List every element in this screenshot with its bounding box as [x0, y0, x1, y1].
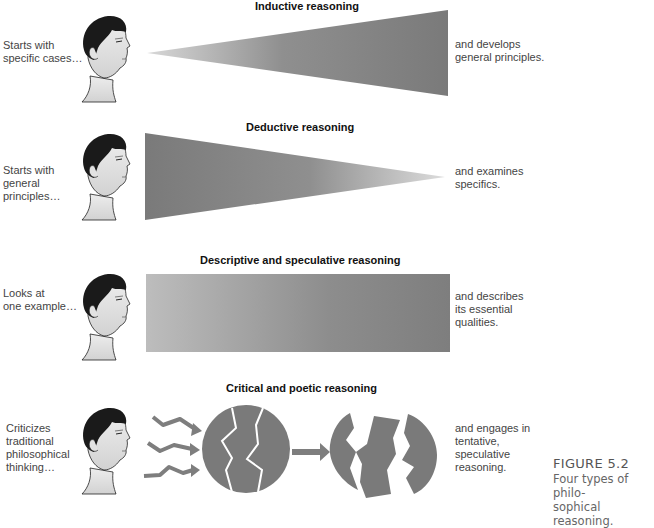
right-text-descriptive: and describes its essential qualities. — [455, 290, 524, 329]
left-text-deductive: Starts with general principles… — [3, 164, 60, 203]
head-illustration-2 — [82, 134, 130, 220]
left-text-inductive: Starts with specific cases… — [3, 39, 82, 65]
arrow-heads — [190, 423, 202, 477]
right-arrow — [292, 443, 330, 461]
right-text-deductive: and examines specifics. — [455, 165, 524, 191]
panel-title-inductive: Inductive reasoning — [255, 0, 359, 12]
figure-number: FIGURE 5.2 — [553, 456, 629, 471]
panel-title-descriptive: Descriptive and speculative reasoning — [200, 254, 401, 266]
expanding-triangle — [147, 10, 448, 96]
left-text-critical: Criticizes traditional philosophical thi… — [6, 422, 70, 474]
left-text-descriptive: Looks at one example… — [3, 287, 77, 313]
wavy-arrows — [144, 417, 195, 476]
right-text-critical: and engages in tentative, speculative re… — [455, 422, 530, 474]
narrowing-triangle — [145, 133, 445, 220]
cracked-circle — [202, 405, 290, 493]
gradient-rectangle — [146, 274, 450, 352]
head-illustration-4 — [82, 408, 130, 494]
right-text-inductive: and develops general principles. — [455, 38, 544, 64]
figure-caption: Four types of philo- sophical reasoning. — [553, 472, 654, 528]
panel-title-deductive: Deductive reasoning — [246, 121, 354, 133]
broken-fragments — [330, 413, 437, 498]
head-illustration-3 — [82, 274, 130, 360]
head-illustration-1 — [82, 16, 130, 102]
panel-title-critical: Critical and poetic reasoning — [226, 382, 377, 394]
